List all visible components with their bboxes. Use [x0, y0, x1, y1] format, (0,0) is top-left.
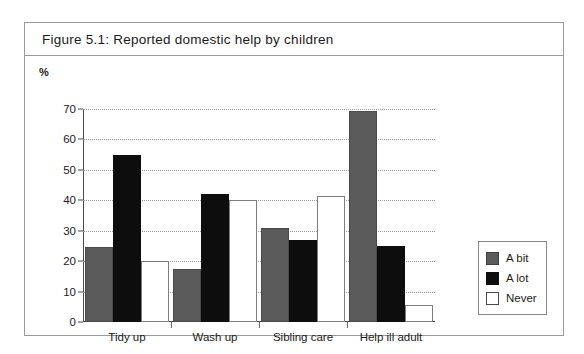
- legend-item-a-lot[interactable]: A lot: [486, 268, 537, 288]
- bar-sibling-care-never: [317, 196, 345, 322]
- y-axis-tick-mark: [78, 322, 83, 323]
- bar-sibling-care-a-lot: [289, 240, 317, 322]
- legend-label: A bit: [506, 252, 528, 264]
- x-axis-label-wash-up: Wash up: [193, 331, 238, 343]
- y-axis-tick-label: 30: [63, 225, 76, 237]
- y-axis-tick-label: 60: [63, 133, 76, 145]
- bar-tidy-up-a-bit: [85, 247, 113, 322]
- chart-plot-wrapper: % 010203040506070 Tidy upWash upSibling …: [25, 56, 563, 335]
- legend-label: A lot: [506, 272, 528, 284]
- x-axis-label-sibling-care: Sibling care: [273, 331, 333, 343]
- figure-title-bar: Figure 5.1: Reported domestic help by ch…: [25, 23, 563, 56]
- legend-label: Never: [506, 292, 537, 304]
- figure-frame: Figure 5.1: Reported domestic help by ch…: [24, 22, 564, 336]
- bar-tidy-up-a-lot: [113, 155, 141, 322]
- y-axis-tick-mark: [78, 261, 83, 262]
- bar-help-ill-adult-a-bit: [349, 111, 377, 322]
- legend-swatch-icon: [486, 252, 499, 265]
- legend-item-a-bit[interactable]: A bit: [486, 248, 537, 268]
- bar-wash-up-never: [229, 200, 257, 322]
- legend-swatch-icon: [486, 272, 499, 285]
- y-axis-tick-mark: [78, 200, 83, 201]
- x-axis-divider: [259, 322, 260, 328]
- legend-swatch-icon: [486, 292, 499, 305]
- x-axis-label-help-ill-adult: Help ill adult: [360, 331, 423, 343]
- bar-help-ill-adult-a-lot: [377, 246, 405, 322]
- y-axis-unit-label: %: [39, 66, 49, 78]
- y-axis-tick-mark: [78, 169, 83, 170]
- y-axis-tick-mark: [78, 139, 83, 140]
- chart-legend: A bitA lotNever: [478, 241, 547, 315]
- x-axis-divider: [171, 322, 172, 328]
- y-axis-tick-mark: [78, 109, 83, 110]
- bar-wash-up-a-lot: [201, 194, 229, 322]
- bar-help-ill-adult-never: [405, 305, 433, 322]
- y-axis-tick-label: 0: [70, 316, 76, 328]
- y-axis-tick-label: 50: [63, 164, 76, 176]
- bar-sibling-care-a-bit: [261, 228, 289, 322]
- gridline: [83, 139, 435, 140]
- y-axis-tick-label: 70: [63, 103, 76, 115]
- y-axis-tick-label: 10: [63, 286, 76, 298]
- plot-area: 010203040506070 Tidy upWash upSibling ca…: [83, 109, 435, 322]
- figure-title: Figure 5.1: Reported domestic help by ch…: [25, 32, 333, 47]
- y-axis-tick-mark: [78, 291, 83, 292]
- bar-wash-up-a-bit: [173, 269, 201, 322]
- y-axis-tick-label: 40: [63, 194, 76, 206]
- x-axis-label-tidy-up: Tidy up: [108, 331, 145, 343]
- legend-item-never[interactable]: Never: [486, 288, 537, 308]
- x-axis-divider: [347, 322, 348, 328]
- y-axis-line: [83, 109, 84, 322]
- gridline: [83, 109, 435, 110]
- y-axis-tick-mark: [78, 230, 83, 231]
- y-axis-tick-label: 20: [63, 255, 76, 267]
- bar-tidy-up-never: [141, 261, 169, 322]
